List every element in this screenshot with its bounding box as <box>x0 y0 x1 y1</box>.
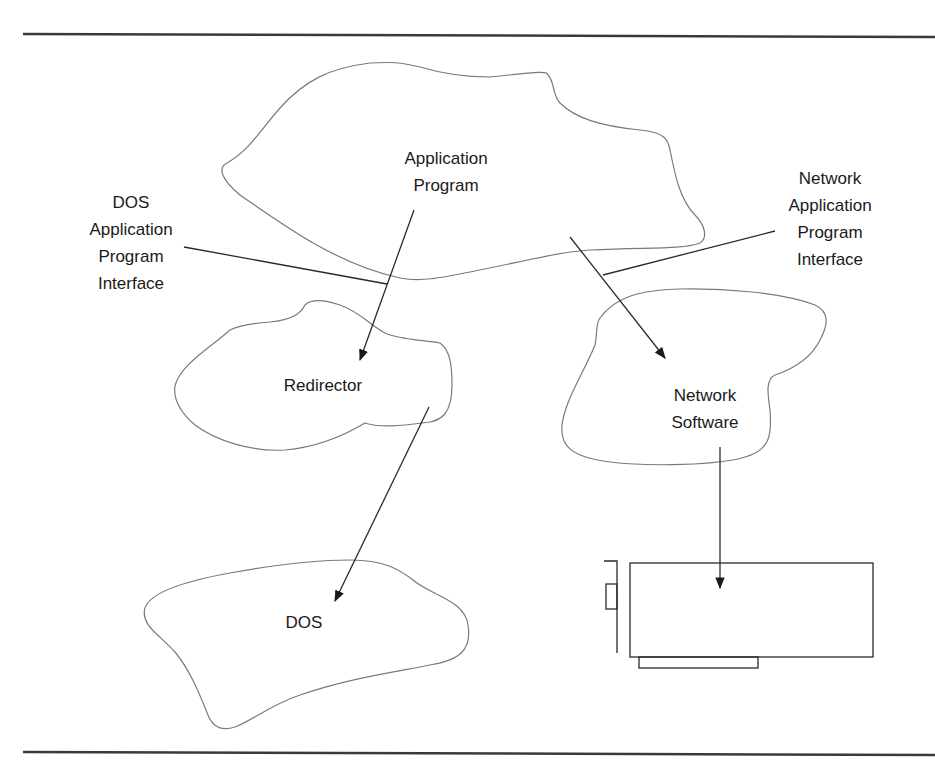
label-line: DOS <box>89 189 172 216</box>
network-redirector-diagram <box>0 0 935 777</box>
application-program-label: Application Program <box>404 145 487 199</box>
arrow-app-to-redirector <box>360 210 414 360</box>
network-api-label: Network Application Program Interface <box>788 165 871 273</box>
arrow-redirector-to-dos <box>335 407 429 601</box>
dos-api-label: DOS Application Program Interface <box>89 189 172 297</box>
network-card-icon <box>604 561 873 668</box>
label-line: Interface <box>89 270 172 297</box>
label-line: Application <box>404 145 487 172</box>
label-line: Redirector <box>284 372 362 399</box>
label-line: Interface <box>788 246 871 273</box>
label-line: Program <box>404 172 487 199</box>
arrow-app-to-network-software <box>570 237 665 358</box>
label-line: Network <box>788 165 871 192</box>
redirector-label: Redirector <box>284 372 362 399</box>
bottom-rule <box>23 752 935 755</box>
label-line: Software <box>671 409 738 436</box>
dos-label: DOS <box>286 609 323 636</box>
top-rule <box>23 34 935 37</box>
label-line: DOS <box>286 609 323 636</box>
label-line: Program <box>89 243 172 270</box>
label-line: Application <box>89 216 172 243</box>
dos-cloud <box>144 560 469 729</box>
label-line: Application <box>788 192 871 219</box>
network-software-label: Network Software <box>671 382 738 436</box>
label-line: Network <box>671 382 738 409</box>
label-line: Program <box>788 219 871 246</box>
dos-api-leader <box>184 247 387 284</box>
network-api-leader <box>603 231 775 275</box>
network-software-cloud <box>562 289 826 465</box>
